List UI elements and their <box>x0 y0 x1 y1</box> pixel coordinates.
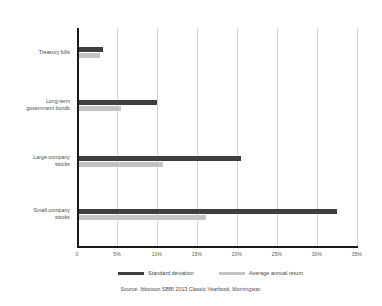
legend-swatch-average-annual-return <box>219 272 245 275</box>
chart-legend: Standard deviation Average annual return <box>0 268 382 280</box>
x-tick-20: 20% <box>227 251 247 257</box>
bar-std-treasury-bills <box>79 47 103 52</box>
category-label-small-company-stocks: Small-company stocks <box>0 207 70 220</box>
category-label-long-term-government-bonds: Long-term government bonds <box>0 98 70 111</box>
legend-item-standard-deviation: Standard deviation <box>118 268 194 278</box>
category-label-line2: stocks <box>0 161 70 168</box>
x-tick-35: 35% <box>347 251 367 257</box>
category-label-large-company-stocks: Large-company stocks <box>0 154 70 167</box>
bar-ret-treasury-bills <box>79 53 100 58</box>
legend-label-standard-deviation: Standard deviation <box>148 270 194 276</box>
bar-ret-small-company-stocks <box>79 215 206 220</box>
bar-std-large-company-stocks <box>79 156 241 161</box>
x-tick-10: 10% <box>147 251 167 257</box>
category-label-line2: stocks <box>0 214 70 221</box>
bar-group-long-term-government-bonds: Long-term government bonds <box>0 97 382 151</box>
bar-std-small-company-stocks <box>79 209 337 214</box>
category-label-line1: Large-company <box>0 154 70 161</box>
category-label-treasury-bills: Treasury bills <box>0 49 70 56</box>
bar-ret-large-company-stocks <box>79 162 163 167</box>
category-label-line1: Small-company <box>0 207 70 214</box>
risk-return-bar-chart: Treasury bills Long-term government bond… <box>0 0 382 306</box>
legend-label-average-annual-return: Average annual return <box>249 270 303 276</box>
category-label-line1: Long-term <box>0 98 70 105</box>
bar-group-large-company-stocks: Large-company stocks <box>0 153 382 207</box>
x-tick-0: 0 <box>67 251 87 257</box>
x-tick-25: 25% <box>267 251 287 257</box>
category-label-line1: Treasury bills <box>0 49 70 56</box>
bar-ret-long-term-government-bonds <box>79 106 121 111</box>
x-tick-30: 30% <box>307 251 327 257</box>
source-note: Source: Ibbotson SBBI 2013 Classic Yearb… <box>0 286 382 292</box>
bar-std-long-term-government-bonds <box>79 100 157 105</box>
legend-item-average-annual-return: Average annual return <box>219 268 303 278</box>
legend-swatch-standard-deviation <box>118 272 144 275</box>
x-tick-15: 15% <box>187 251 207 257</box>
x-tick-5: 5% <box>107 251 127 257</box>
bar-group-treasury-bills: Treasury bills <box>0 44 382 98</box>
category-label-line2: government bonds <box>0 105 70 112</box>
